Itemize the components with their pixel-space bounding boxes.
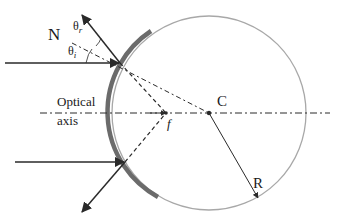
focal-label: f (167, 116, 173, 131)
normal-label: N (48, 25, 60, 44)
concave-mirror-diagram: N θr θi Optical axis C f R (0, 0, 338, 222)
radius-line (209, 113, 258, 198)
theta-i-label: θi (68, 44, 77, 60)
theta-r-label: θr (73, 19, 83, 35)
theta-r-arc (96, 38, 101, 46)
optical-axis-label-line2: axis (57, 113, 78, 128)
focal-point (164, 111, 168, 115)
optical-axis-label-line1: Optical (57, 94, 96, 109)
upper-virtual-ray (120, 63, 166, 113)
lower-reflected-ray (82, 162, 125, 212)
center-label: C (217, 93, 227, 109)
lower-virtual-ray (125, 113, 166, 162)
radius-label: R (253, 175, 263, 191)
